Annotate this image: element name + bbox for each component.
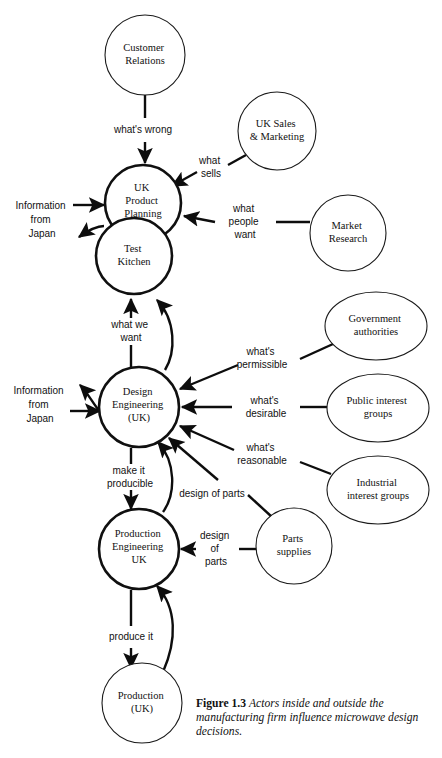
edge-customer-relations-to-uk-product-planning: what's wrong [113, 95, 172, 163]
edge-production-to-production-engineering: produce it [109, 586, 173, 672]
node-government-authorities[interactable]: Government authorities [325, 292, 427, 360]
figure-caption: Figure 1.3 Actors inside and outside the… [196, 697, 438, 740]
edge-label-design-of-parts-upper: design of parts [179, 488, 245, 499]
figure-caption-label: Figure 1.3 [196, 697, 246, 710]
edge-arrow [184, 216, 215, 222]
edge-arrow-curved [158, 442, 172, 512]
edge-label-design-of-parts-lower: design of parts [200, 530, 232, 567]
node-customer-relations[interactable]: Customer Relations [105, 15, 185, 95]
edge-label-market-research: what people want [229, 203, 262, 240]
edge-production-engineering-to-design-engineering: make it producible [107, 442, 172, 512]
actor-influence-diagram: what's wrong what sells what people want [0, 0, 442, 758]
edge-arrow [169, 438, 218, 480]
edge-arrow [180, 426, 234, 450]
node-uk-sales-marketing[interactable]: UK Sales & Marketing [238, 92, 316, 170]
edge-market-research-to-uk-product-planning: what people want [184, 203, 310, 240]
edge-arrow-curved [157, 586, 173, 672]
edge-arrow-curved [157, 300, 172, 370]
node-test-kitchen[interactable]: Test Kitchen [96, 218, 172, 294]
node-market-research[interactable]: Market Research [310, 195, 386, 271]
edge-label-make-it-producible: make it producible [107, 465, 154, 489]
edge-japan-to-design-engineering: Information from Japan [14, 385, 101, 424]
edge-label-what-we-want: what we want [110, 319, 150, 343]
edge-design-engineering-to-test-kitchen: what we want [110, 299, 172, 370]
edge-label-japan-design-engineering: Information from Japan [14, 385, 67, 424]
node-production-engineering-uk[interactable]: Production Engineering UK [99, 509, 179, 589]
edge-parts-supplies-to-production-engineering: design of parts [181, 530, 256, 567]
node-parts-supplies[interactable]: Parts supplies [256, 508, 332, 584]
node-design-engineering-uk[interactable]: Design Engineering (UK) [99, 367, 179, 447]
edge-label-japan-product-planning: Information from Japan [16, 200, 69, 239]
edge-label-whats-reasonable: what's reasonable [237, 442, 287, 466]
edge-segment [300, 462, 331, 474]
node-public-interest-groups[interactable]: Public interest groups [327, 374, 429, 442]
edge-label-uk-sales: what sells [198, 155, 223, 179]
edge-label-whats-permissible: what's permissible [237, 346, 288, 370]
edge-public-interest-to-design-engineering: what's desirable [182, 395, 327, 419]
edge-label-customer-relations: what's wrong [113, 124, 172, 135]
node-production-uk[interactable]: Production (UK) [102, 663, 182, 743]
edge-uk-sales-to-uk-product-planning: what sells [172, 155, 246, 186]
edge-segment [300, 344, 333, 359]
edge-government-to-design-engineering: what's permissible [180, 344, 333, 389]
edge-label-whats-desirable: what's desirable [246, 395, 287, 419]
edge-arrow-out [79, 226, 104, 237]
edge-japan-to-uk-product-planning: Information from Japan [16, 200, 104, 239]
edge-segment [248, 495, 272, 517]
node-industrial-interest-groups[interactable]: Industrial interest groups [327, 456, 429, 524]
edge-segment [228, 155, 246, 165]
edge-arrow [180, 365, 238, 389]
edge-label-produce-it: produce it [109, 631, 153, 642]
